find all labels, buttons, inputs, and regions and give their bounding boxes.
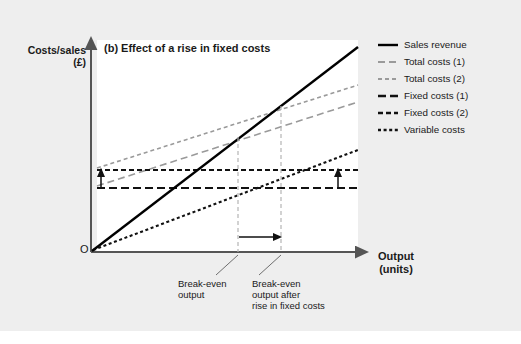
legend-label-total-costs-1: Total costs (1)	[404, 56, 465, 67]
legend-label-variable-costs: Variable costs	[404, 124, 465, 135]
annotation-break-even-output-after: Break-even output after rise in fixed co…	[252, 278, 352, 312]
legend-label-fixed-costs-2: Fixed costs (2)	[404, 107, 468, 118]
origin-label: O	[80, 243, 89, 256]
legend-label-fixed-costs-1: Fixed costs (1)	[404, 90, 468, 101]
chart-title: (b) Effect of a rise in fixed costs	[104, 42, 270, 55]
y-axis-label: Costs/sales (£)	[8, 44, 86, 69]
annotation-leader-2	[259, 255, 281, 275]
legend-label-sales-revenue: Sales revenue	[404, 39, 467, 50]
legend-label-total-costs-2: Total costs (2)	[404, 73, 465, 84]
x-axis-label: Output (units)	[360, 250, 432, 276]
annotation-break-even-output: Break-even output	[178, 278, 248, 300]
annotation-leader-1	[216, 255, 238, 275]
bottom-white-strip	[0, 331, 521, 344]
chart-figure: Costs/sales (£) (b) Effect of a rise in …	[0, 0, 521, 344]
